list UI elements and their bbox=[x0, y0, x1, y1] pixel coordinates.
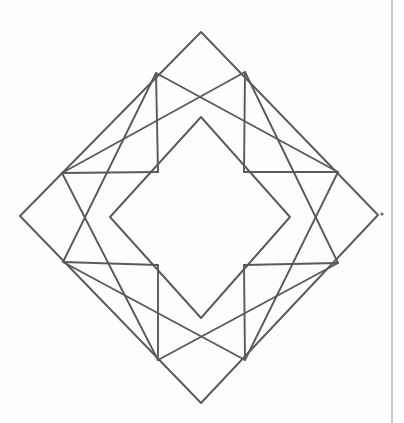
chord-left-lower bbox=[63, 262, 158, 265]
chord-bottom-right bbox=[244, 265, 245, 360]
chord-right-lower bbox=[244, 263, 338, 265]
chord-top-left bbox=[156, 73, 158, 172]
outer-diamond bbox=[20, 32, 378, 403]
scan-speck bbox=[380, 212, 383, 215]
chord-top-right bbox=[244, 72, 245, 172]
inner-square bbox=[110, 117, 290, 318]
chord-left-upper bbox=[62, 172, 158, 173]
page-canvas bbox=[0, 0, 404, 423]
geometric-figure bbox=[0, 0, 404, 423]
